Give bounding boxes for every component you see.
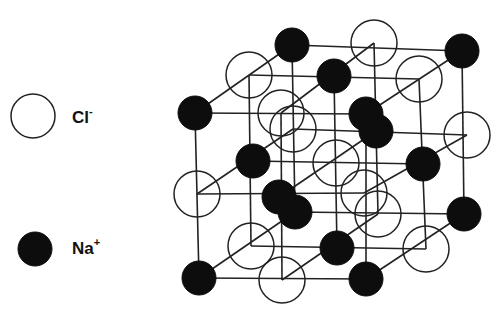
sodium-ion	[349, 262, 383, 296]
sodium-ion	[178, 96, 212, 130]
chloride-ion	[403, 226, 449, 272]
chloride-ion	[396, 56, 442, 102]
sodium-ion	[236, 144, 270, 178]
sodium-ion	[320, 231, 354, 265]
legend-symbol-sodium: Na	[72, 239, 94, 258]
sodium-ion-icon	[18, 232, 52, 266]
legend: Cl- Na+	[11, 94, 100, 266]
chloride-ion	[259, 257, 305, 303]
legend-item-sodium: Na+	[18, 232, 100, 266]
legend-charge-sodium: +	[94, 236, 100, 248]
legend-item-chloride: Cl-	[11, 94, 93, 138]
sodium-ion	[275, 28, 309, 62]
legend-charge-chloride: -	[89, 105, 93, 117]
chloride-ion	[341, 170, 387, 216]
sodium-ion	[447, 197, 481, 231]
chloride-ion	[258, 90, 304, 136]
sodium-ion	[445, 34, 479, 68]
lattice-ions	[174, 20, 490, 303]
legend-symbol-chloride: Cl	[72, 108, 89, 127]
chloride-ion-icon	[11, 94, 55, 138]
chloride-ion	[444, 112, 490, 158]
chloride-ion	[351, 20, 397, 66]
chloride-ion	[174, 171, 220, 217]
legend-label-sodium: Na+	[72, 236, 100, 258]
nacl-lattice-diagram: Cl- Na+	[0, 0, 501, 329]
legend-label-chloride: Cl-	[72, 105, 93, 127]
chloride-ion	[226, 52, 272, 98]
sodium-ion	[406, 147, 440, 181]
sodium-ion	[262, 180, 296, 214]
sodium-ion	[317, 59, 351, 93]
sodium-ion	[182, 261, 216, 295]
sodium-ion	[349, 97, 383, 131]
